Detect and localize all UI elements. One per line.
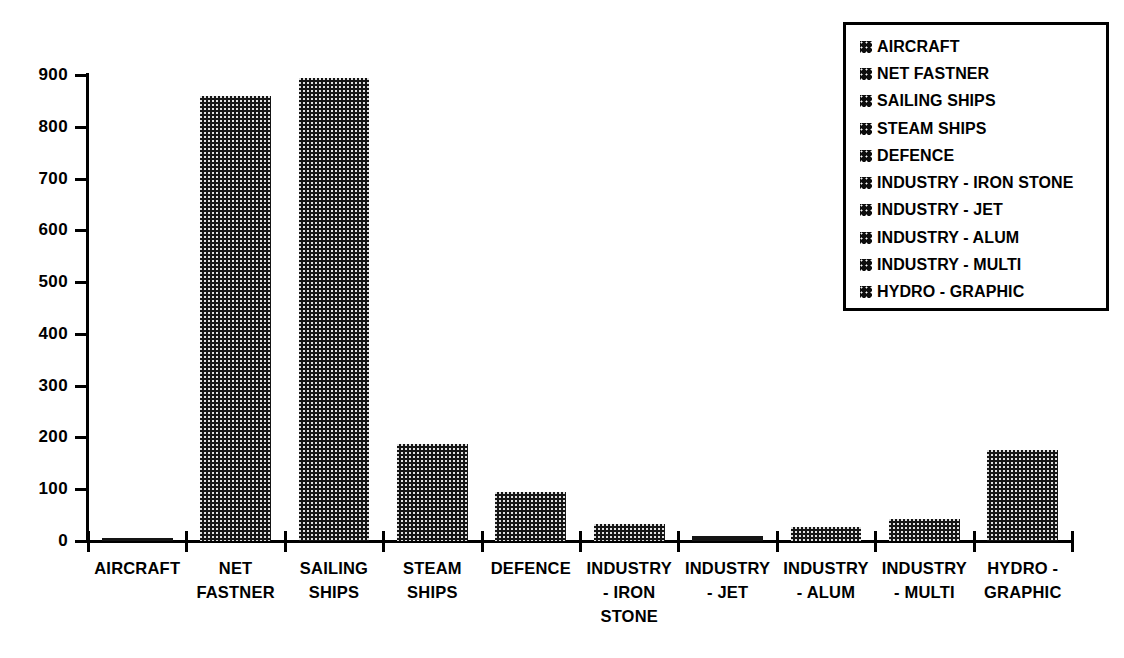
legend: AIRCRAFTNET FASTNERSAILING SHIPSSTEAM SH… [843, 22, 1109, 311]
y-tick-label-300: 300 [0, 377, 68, 395]
legend-swatch-icon [860, 259, 872, 271]
legend-swatch-icon [860, 95, 872, 107]
legend-swatch-icon [860, 150, 872, 162]
x-axis-label: INDUSTRY - IRON STONE [580, 556, 678, 628]
y-tick-label-700: 700 [0, 170, 68, 188]
y-tick-label-800: 800 [0, 118, 68, 136]
bar[interactable] [299, 78, 370, 541]
legend-item-label: INDUSTRY - MULTI [877, 257, 1021, 273]
x-axis-label: STEAM SHIPS [383, 556, 481, 604]
legend-list: AIRCRAFTNET FASTNERSAILING SHIPSSTEAM SH… [860, 33, 1102, 306]
x-axis-label: AIRCRAFT [88, 556, 186, 580]
y-tick-600 [75, 229, 88, 232]
bar[interactable] [102, 538, 173, 541]
y-tick-label-900: 900 [0, 66, 68, 84]
legend-item-label: NET FASTNER [877, 66, 989, 82]
y-tick-900 [75, 74, 88, 77]
legend-item-label: STEAM SHIPS [877, 121, 987, 137]
x-axis-label: INDUSTRY - JET [678, 556, 776, 604]
bar-chart: 0100200300400500600700800900 AIRCRAFTNET… [0, 0, 1124, 658]
y-tick-200 [75, 436, 88, 439]
legend-item[interactable]: HYDRO - GRAPHIC [860, 279, 1102, 306]
bar[interactable] [397, 444, 468, 541]
legend-item-label: INDUSTRY - JET [877, 202, 1003, 218]
y-tick-label-600: 600 [0, 221, 68, 239]
legend-item[interactable]: INDUSTRY - ALUM [860, 224, 1102, 251]
legend-item[interactable]: INDUSTRY - JET [860, 197, 1102, 224]
y-tick-label-400: 400 [0, 325, 68, 343]
legend-item-label: INDUSTRY - IRON STONE [877, 175, 1074, 191]
legend-item-label: HYDRO - GRAPHIC [877, 284, 1024, 300]
y-tick-400 [75, 333, 88, 336]
legend-swatch-icon [860, 286, 872, 298]
legend-item-label: SAILING SHIPS [877, 93, 996, 109]
legend-item[interactable]: INDUSTRY - IRON STONE [860, 169, 1102, 196]
legend-swatch-icon [860, 123, 872, 135]
y-tick-label-200: 200 [0, 428, 68, 446]
y-tick-label-0: 0 [0, 532, 68, 550]
legend-item[interactable]: AIRCRAFT [860, 33, 1102, 60]
y-tick-label-500: 500 [0, 273, 68, 291]
legend-swatch-icon [860, 177, 872, 189]
legend-item-label: AIRCRAFT [877, 39, 960, 55]
legend-item[interactable]: NET FASTNER [860, 60, 1102, 87]
y-tick-100 [75, 488, 88, 491]
bar[interactable] [495, 492, 566, 541]
legend-swatch-icon [860, 68, 872, 80]
x-axis-label: HYDRO - GRAPHIC [974, 556, 1072, 604]
y-tick-700 [75, 178, 88, 181]
legend-item-label: INDUSTRY - ALUM [877, 230, 1019, 246]
legend-item[interactable]: STEAM SHIPS [860, 115, 1102, 142]
x-axis-label: SAILING SHIPS [285, 556, 383, 604]
y-tick-800 [75, 126, 88, 129]
x-axis-label: INDUSTRY - ALUM [777, 556, 875, 604]
legend-item[interactable]: SAILING SHIPS [860, 88, 1102, 115]
legend-swatch-icon [860, 232, 872, 244]
bar[interactable] [889, 519, 960, 541]
bar[interactable] [791, 527, 862, 541]
y-tick-label-100: 100 [0, 480, 68, 498]
legend-item-label: DEFENCE [877, 148, 954, 164]
bar[interactable] [692, 536, 763, 541]
legend-swatch-icon [860, 41, 872, 53]
x-axis-label: DEFENCE [482, 556, 580, 580]
x-axis-label: NET FASTNER [186, 556, 284, 604]
bar[interactable] [200, 96, 271, 541]
legend-item[interactable]: DEFENCE [860, 142, 1102, 169]
legend-item[interactable]: INDUSTRY - MULTI [860, 251, 1102, 278]
bar[interactable] [987, 450, 1058, 541]
y-tick-300 [75, 385, 88, 388]
bar[interactable] [594, 524, 665, 541]
y-tick-500 [75, 281, 88, 284]
legend-swatch-icon [860, 204, 872, 216]
x-axis-label: INDUSTRY - MULTI [875, 556, 973, 604]
